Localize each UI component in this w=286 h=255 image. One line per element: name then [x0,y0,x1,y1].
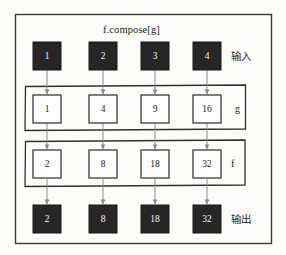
input-box-label-2: 3 [141,52,169,62]
output-box-label-3: 32 [193,215,221,225]
input-side-label: 输入 [231,51,251,62]
group-label-g: g [235,104,240,114]
diagram-canvas: f.compose[g] 输入 输出 g f 1 2 3 4 1 4 9 16 … [0,0,286,255]
arrows-g-to-f [47,123,207,149]
group-label-f: f [231,159,234,169]
output-side-label: 输出 [231,214,251,225]
diagram-title: f.compose[g] [103,25,160,36]
f-box-label-2: 18 [141,160,169,170]
f-box-label-1: 8 [89,160,117,170]
g-box-label-2: 9 [141,105,169,115]
input-box-label-1: 2 [89,52,117,62]
output-box-label-0: 2 [33,215,61,225]
arrows-f-to-output [47,179,207,204]
g-box-label-0: 1 [33,105,61,115]
g-box-label-3: 16 [193,105,221,115]
input-box-label-3: 4 [193,52,221,62]
arrows-input-to-g [47,70,207,94]
f-box-label-0: 2 [33,160,61,170]
output-box-label-1: 8 [89,215,117,225]
input-box-label-0: 1 [33,52,61,62]
g-box-label-1: 4 [89,105,117,115]
f-box-label-3: 32 [193,160,221,170]
output-box-label-2: 18 [141,215,169,225]
